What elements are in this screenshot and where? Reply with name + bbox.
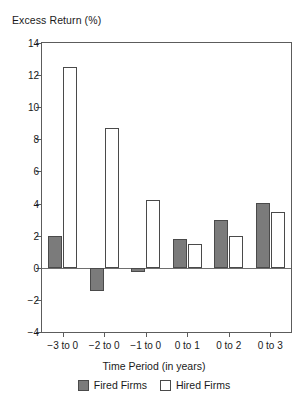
y-tick-label: 12 bbox=[28, 70, 39, 81]
bar-hired bbox=[63, 67, 77, 268]
y-tick-label: 6 bbox=[33, 166, 39, 177]
bar-fired bbox=[173, 239, 187, 268]
x-tick-label: 0 to 1 bbox=[175, 340, 200, 351]
legend-entry: Fired Firms bbox=[78, 379, 147, 391]
y-tick-label: 10 bbox=[28, 102, 39, 113]
x-axis-title: Time Period (in years) bbox=[0, 360, 308, 372]
x-tick-mark bbox=[270, 332, 271, 337]
y-tick-label: 8 bbox=[33, 134, 39, 145]
zero-baseline bbox=[42, 268, 291, 269]
plot-area: 14121086420−2−4−3 to 0−2 to 0−1 to 00 to… bbox=[41, 42, 292, 333]
chart-legend: Fired FirmsHired Firms bbox=[0, 379, 308, 391]
outlined-white-swatch bbox=[160, 380, 171, 391]
x-tick-label: −2 to 0 bbox=[89, 340, 120, 351]
bar-fired bbox=[131, 268, 145, 272]
x-tick-label: 0 to 2 bbox=[216, 340, 241, 351]
bar-hired bbox=[146, 200, 160, 268]
filled-gray-swatch bbox=[78, 380, 89, 391]
excess-return-bar-chart: Excess Return (%) 14121086420−2−4−3 to 0… bbox=[0, 0, 308, 407]
legend-label: Fired Firms bbox=[94, 379, 147, 391]
y-tick-label: 2 bbox=[33, 230, 39, 241]
x-tick-mark bbox=[229, 332, 230, 337]
x-tick-label: −3 to 0 bbox=[47, 340, 78, 351]
bar-fired bbox=[256, 203, 270, 268]
bar-fired bbox=[48, 236, 62, 268]
bar-hired bbox=[105, 128, 119, 268]
x-tick-mark bbox=[104, 332, 105, 337]
plot-inner: 14121086420−2−4−3 to 0−2 to 0−1 to 00 to… bbox=[42, 43, 291, 332]
y-tick-label: 14 bbox=[28, 38, 39, 49]
y-tick-label: 4 bbox=[33, 198, 39, 209]
y-axis-title: Excess Return (%) bbox=[12, 14, 101, 26]
legend-label: Hired Firms bbox=[176, 379, 230, 391]
bar-hired bbox=[271, 212, 285, 268]
bar-fired bbox=[214, 220, 228, 268]
x-tick-label: 0 to 3 bbox=[258, 340, 283, 351]
y-tick-label: 0 bbox=[33, 262, 39, 273]
bar-hired bbox=[229, 236, 243, 267]
legend-entry: Hired Firms bbox=[160, 379, 230, 391]
x-tick-label: −1 to 0 bbox=[130, 340, 161, 351]
x-tick-mark bbox=[63, 332, 64, 337]
bar-hired bbox=[188, 244, 202, 268]
x-tick-mark bbox=[146, 332, 147, 337]
y-tick-label: −4 bbox=[28, 327, 39, 338]
y-tick-label: −2 bbox=[28, 294, 39, 305]
x-tick-mark bbox=[187, 332, 188, 337]
bar-fired bbox=[90, 268, 104, 291]
